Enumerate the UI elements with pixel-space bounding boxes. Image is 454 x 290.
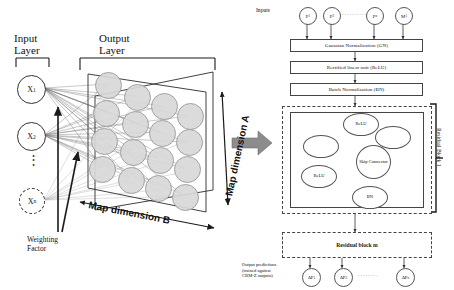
map-cell — [120, 139, 147, 166]
map-cell — [177, 103, 204, 130]
output-layer-label: Output Layer — [99, 32, 130, 56]
map-cell — [95, 72, 122, 99]
output-node-dp2[interactable]: ΔP2 — [334, 268, 353, 287]
flow-input-node-p2[interactable]: P2 — [323, 7, 341, 25]
input-layer-label: Input Layer — [14, 32, 40, 56]
output-node-dp1[interactable]: ΔP1 — [302, 268, 321, 287]
map-cell — [149, 120, 176, 147]
map-dimension-b-label: Map dimension B — [88, 199, 171, 226]
process-box-gaussian-normalization[interactable]: Gaussian Normalization (GN) — [290, 39, 423, 52]
residual-ellipse-skip-connector[interactable]: Skip Connec­tor — [356, 145, 391, 179]
map-cell — [93, 100, 120, 127]
flow-input-node-p1[interactable]: P1 — [299, 7, 317, 25]
output-node-dpn[interactable]: ΔPn — [396, 268, 415, 287]
residual-ellipse-relu-top[interactable]: ReLU — [343, 113, 379, 136]
input-node-xn[interactable]: Xn — [19, 188, 45, 214]
map-cell — [151, 93, 178, 120]
figure-canvas: Input Layer Output Layer X1 X2 Xn ⋮ Weig… — [0, 0, 454, 290]
process-box-relu[interactable]: Rectified linear unit (ReLU) — [290, 61, 423, 74]
process-box-batch-normalization[interactable]: Batch Normalization (BN) — [290, 83, 423, 96]
input-node-x2-sub: 2 — [33, 134, 36, 140]
map-cell — [91, 128, 118, 155]
input-node-x1[interactable]: X1 — [17, 75, 46, 104]
map-cell — [147, 147, 174, 174]
input-node-x1-sub: 1 — [33, 87, 36, 93]
input-node-x2[interactable]: X2 — [17, 122, 46, 151]
map-cell — [124, 84, 151, 111]
input-node-xn-sub: n — [34, 198, 37, 204]
map-cell — [172, 184, 199, 211]
map-cell — [176, 129, 203, 156]
left-panel-network-map: Input Layer Output Layer X1 X2 Xn ⋮ Weig… — [0, 0, 240, 290]
map-cell — [118, 167, 145, 194]
residual-block-1-label: Residual Block 1 — [436, 128, 442, 167]
residual-ellipse-bn[interactable]: BN — [352, 186, 388, 209]
flow-input-dots: ·········· — [342, 12, 367, 17]
residual-block-m-label: Residual block m — [336, 242, 377, 248]
output-nodes-dots: ········ — [358, 273, 378, 278]
map-cell — [174, 156, 201, 183]
map-cell — [122, 111, 149, 138]
residual-ellipse-blank-left[interactable] — [303, 135, 339, 158]
map-cell — [89, 156, 116, 183]
right-panel-residual-flow: Inputs P1 P2 ·········· Pn M1 Gaussian N… — [240, 0, 454, 290]
flow-input-node-pn[interactable]: Pn — [366, 7, 384, 25]
inputs-label: Inputs — [256, 7, 270, 14]
output-predictions-caption: Output predictions (trained against CBM-… — [242, 262, 276, 279]
map-cell — [145, 175, 172, 202]
flow-input-node-m1[interactable]: M1 — [395, 7, 413, 25]
residual-ellipse-relu-bottom[interactable]: ReLU — [301, 165, 337, 188]
residual-block-m[interactable]: Residual block m — [282, 232, 432, 258]
weighting-factor-label: Weighting Factor — [27, 236, 58, 253]
input-nodes-ellipsis: ⋮ — [27, 155, 40, 165]
